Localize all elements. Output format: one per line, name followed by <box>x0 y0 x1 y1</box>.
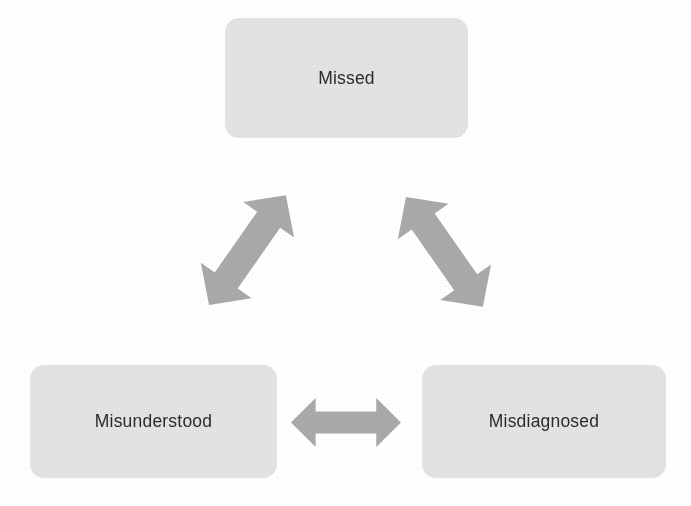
diagram-canvas: Missed Misunderstood Misdiagnosed <box>0 0 691 506</box>
node-missed-label: Missed <box>318 68 375 89</box>
arrow-missed-misunderstood[interactable] <box>184 177 312 322</box>
arrow-misunderstood-misdiagnosed[interactable] <box>291 398 401 447</box>
node-misdiagnosed-label: Misdiagnosed <box>489 411 599 432</box>
node-missed[interactable]: Missed <box>225 18 468 138</box>
node-misunderstood[interactable]: Misunderstood <box>30 365 277 478</box>
arrow-missed-misdiagnosed[interactable] <box>381 179 509 324</box>
node-misdiagnosed[interactable]: Misdiagnosed <box>422 365 666 478</box>
node-misunderstood-label: Misunderstood <box>95 411 212 432</box>
